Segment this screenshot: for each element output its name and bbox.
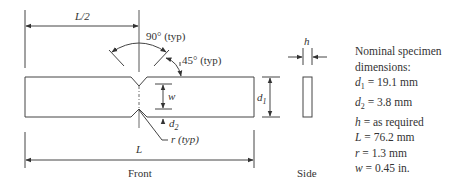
half-length-label: L/2 bbox=[74, 10, 90, 22]
angle-45-arc bbox=[166, 58, 181, 76]
spec-h: h = as required bbox=[355, 115, 442, 131]
width-label: w bbox=[168, 90, 176, 102]
specs-title-line2: dimensions: bbox=[355, 60, 442, 76]
notch-depth-label: d2 bbox=[169, 117, 179, 132]
length-label: L bbox=[135, 143, 142, 155]
spec-d1: d1 = 19.1 mm bbox=[355, 75, 442, 95]
radius-leader bbox=[139, 110, 168, 140]
spec-w: w = 0.45 in. bbox=[355, 161, 442, 177]
side-view-label: Side bbox=[297, 167, 317, 179]
depth-label: d1 bbox=[257, 91, 267, 106]
specs-title-line1: Nominal specimen bbox=[355, 44, 442, 60]
angle-45-label: 45° (typ) bbox=[182, 54, 222, 67]
front-view-label: Front bbox=[128, 167, 152, 179]
spec-r: r = 1.3 mm bbox=[355, 146, 442, 162]
spec-L: L = 76.2 mm bbox=[355, 130, 442, 146]
angle-90-label: 90° (typ) bbox=[146, 30, 186, 43]
side-view-outline bbox=[303, 77, 312, 117]
specimen-dimensions-list: Nominal specimen dimensions: d1 = 19.1 m… bbox=[355, 44, 442, 177]
thickness-label: h bbox=[304, 35, 310, 47]
spec-d2: d2 = 3.8 mm bbox=[355, 95, 442, 115]
radius-label: r (typ) bbox=[171, 133, 199, 146]
